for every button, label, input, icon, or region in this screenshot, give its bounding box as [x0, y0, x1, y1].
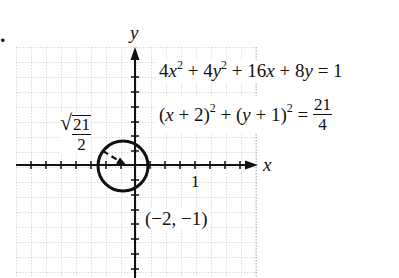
eq1-rhs: = 1: [313, 60, 343, 81]
eq1-term2-exp: 2: [221, 58, 227, 72]
eq1-term1-var: x: [169, 60, 177, 81]
problem-marker: .: [0, 22, 6, 48]
eq1-term3-var: x: [266, 60, 274, 81]
eq2-op: +: [216, 104, 236, 126]
eq1-op2: + 16: [227, 60, 266, 81]
eq2-rhs-fraction: 214: [313, 96, 332, 133]
eq2-rhs-denominator: 4: [318, 115, 327, 133]
equation-general-form: 4x2 + 4y2 + 16x + 8y = 1: [157, 60, 345, 82]
eq1-op3: + 8: [275, 60, 305, 81]
eq1-term4-var: y: [304, 60, 312, 81]
radius-label: √ 21 2: [60, 112, 91, 153]
eq2-rhs-numerator: 21: [313, 96, 332, 115]
eq1-term2-var: y: [213, 60, 221, 81]
center-point-label: (−2, −1): [144, 208, 209, 230]
x-tick-label-1: 1: [191, 172, 200, 192]
eq2-part1: (x + 2)2: [159, 104, 216, 126]
eq2-equals: =: [293, 104, 313, 126]
radius-numerator: 21: [72, 116, 91, 135]
eq1-term2-coef: 4: [203, 60, 213, 81]
radius-fraction: 21 2: [72, 115, 91, 153]
eq1-op1: +: [183, 60, 203, 81]
equation-standard-form: (x + 2)2 + (y + 1)2 = 214: [157, 96, 334, 133]
radius-denominator: 2: [77, 135, 86, 153]
x-axis-label: x: [263, 154, 271, 176]
eq1-term1-exp: 2: [177, 58, 183, 72]
y-axis-label: y: [130, 22, 138, 44]
eq1-term1-coef: 4: [159, 60, 169, 81]
eq2-part2: (y + 1)2: [236, 104, 293, 126]
sqrt-symbol-icon: √: [60, 112, 72, 134]
